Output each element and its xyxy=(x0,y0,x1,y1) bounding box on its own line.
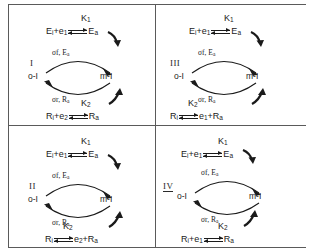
equilibrium-arrow-icon xyxy=(203,150,222,159)
reaction-scheme-figure: I K1 Ei+e1Ea o-I m-I σf, Ea σr, Ra K2 Ri… xyxy=(0,0,311,251)
cycle-label-forward-III: σf, Ea xyxy=(198,49,215,58)
rate-constant-top-IV: K1 xyxy=(218,137,228,147)
feed-arrow-top-icon xyxy=(242,149,260,165)
cycle-node-meta-I: m-I xyxy=(100,72,112,81)
equilibrium-arrow-icon xyxy=(68,150,87,159)
cycle-node-ortho-II: o-I xyxy=(28,195,38,204)
cycle-label-reverse-III: σr, Ra xyxy=(198,96,215,105)
equilibrium-arrow-icon xyxy=(179,112,198,121)
cycle-node-meta-II: m-I xyxy=(100,195,112,204)
bottom-equation-I: Ri+e2Ra xyxy=(46,111,99,123)
feed-arrow-bottom-icon xyxy=(106,88,124,106)
rate-constant-top-I: K1 xyxy=(81,14,91,24)
cycle-label-forward-IV: σf, Ea xyxy=(201,169,218,178)
panel-label-IV: IV xyxy=(163,182,173,192)
rate-constant-top-II: K1 xyxy=(81,137,91,147)
bottom-equation-IV: Ri+e1Ra xyxy=(181,234,234,246)
rate-constant-bottom-IV: K2 xyxy=(218,222,228,232)
feed-arrow-top-icon xyxy=(106,31,124,49)
cycle-node-meta-IV: m-I xyxy=(249,192,261,201)
equilibrium-arrow-icon xyxy=(69,112,88,121)
cycle-label-forward-II: σf, Ea xyxy=(52,172,69,181)
cycle-label-reverse-I: σr, Ra xyxy=(52,96,69,105)
top-equation-I: Ei+e1Ea xyxy=(46,26,98,38)
rate-constant-top-III: K1 xyxy=(224,14,234,24)
feed-arrow-top-icon xyxy=(249,31,267,49)
top-equation-III: Ei+e1Ea xyxy=(189,26,241,38)
top-equation-IV: Ei+e1Ea xyxy=(181,149,233,161)
panel-III: III K1 Ei+e1Ea o-I m-I σf, Ea σr, Ra K2 … xyxy=(156,3,311,125)
top-equation-II: Ei+e1Ea xyxy=(46,149,98,161)
cycle-node-ortho-III: o-I xyxy=(174,72,184,81)
feed-arrow-top-icon xyxy=(106,154,124,172)
rate-constant-bottom-I: K2 xyxy=(81,99,91,109)
cycle-label-forward-I: σf, Ea xyxy=(52,49,69,58)
panel-IV: IV K1 Ei+e1Ea o-I m-I σf, Ea σr, Ra K2 R… xyxy=(156,126,311,248)
equilibrium-arrow-icon xyxy=(211,27,230,36)
equilibrium-arrow-icon xyxy=(54,235,73,244)
rate-constant-bottom-II: K2 xyxy=(63,222,73,232)
feed-arrow-bottom-icon xyxy=(249,88,267,106)
rate-constant-bottom-III: K2 xyxy=(188,99,198,109)
cycle-node-ortho-I: o-I xyxy=(28,72,38,81)
cycle-label-reverse-IV: σr, Ra xyxy=(201,216,218,225)
feed-arrow-bottom-icon xyxy=(106,211,124,229)
feed-arrow-bottom-icon xyxy=(241,210,259,228)
bottom-equation-III: Rie1+Ra xyxy=(170,111,223,123)
cycle-node-ortho-IV: o-I xyxy=(177,192,187,201)
bottom-equation-II: Rie2+Ra xyxy=(45,234,98,246)
panel-I: I K1 Ei+e1Ea o-I m-I σf, Ea σr, Ra K2 Ri… xyxy=(0,3,155,125)
panel-II: II K1 Ei+e1Ea o-I m-I σf, Ea σr, Ra K2 R… xyxy=(0,126,155,248)
cycle-node-meta-III: m-I xyxy=(246,72,258,81)
equilibrium-arrow-icon xyxy=(68,27,87,36)
interconversion-cycle-IV: o-I m-I σf, Ea σr, Ra xyxy=(179,171,275,223)
equilibrium-arrow-icon xyxy=(204,235,223,244)
